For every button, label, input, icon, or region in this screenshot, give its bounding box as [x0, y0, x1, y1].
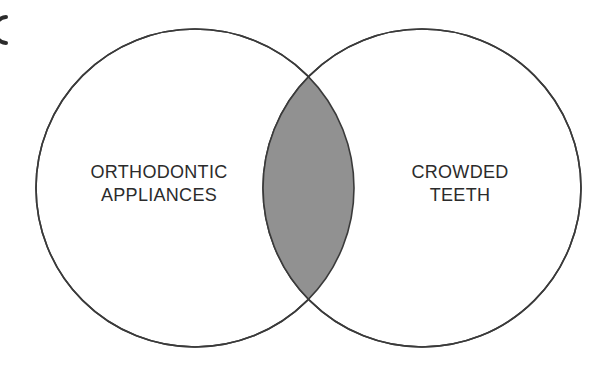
left-set-label-line2: APPLIANCES [101, 185, 217, 205]
right-set-label-line1: CROWDED [411, 162, 508, 182]
venn-diagram-canvas: ORTHODONTIC APPLIANCES CROWDED TEETH [0, 0, 612, 372]
left-set-label-line1: ORTHODONTIC [91, 162, 228, 182]
right-set-label-line2: TEETH [430, 185, 491, 205]
venn-diagram-figure: ORTHODONTIC APPLIANCES CROWDED TEETH [0, 0, 612, 372]
